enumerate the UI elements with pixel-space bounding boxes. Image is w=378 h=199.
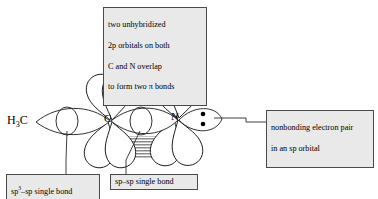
carbon-atom-label: C xyxy=(104,112,111,124)
callout-sp-sp-bond: sp–sp single bond xyxy=(110,174,198,190)
callout-sp3-suffix: –sp single bond xyxy=(21,187,72,196)
callout-lone-pair: nonbonding electron pair in an sp orbita… xyxy=(266,110,374,168)
nitrogen-atom-label: N xyxy=(171,110,179,122)
callout-pi-bonds: two unhybridized 2p orbitals on both C a… xyxy=(103,7,207,106)
callout-lone-pair-line2: in an sp orbital xyxy=(271,144,369,154)
callout-pi-line2: 2p orbitals on both xyxy=(108,41,202,51)
callout-pi-line4: to form two π bonds xyxy=(108,82,202,92)
callout-pi-line1: two unhybridized xyxy=(108,20,202,30)
callout-lone-pair-line1: nonbonding electron pair xyxy=(271,123,369,133)
callout-pi-line3: C and N overlap xyxy=(108,62,202,72)
callout-sp3-sp-bond: sp3–sp single bond xyxy=(6,174,100,199)
methyl-group-label: H3C xyxy=(7,113,28,128)
leader-sp3-sp-bond xyxy=(66,131,67,174)
orbital-diagram-figure: H3C C N two unhybridized 2p orbitals on … xyxy=(0,0,378,199)
